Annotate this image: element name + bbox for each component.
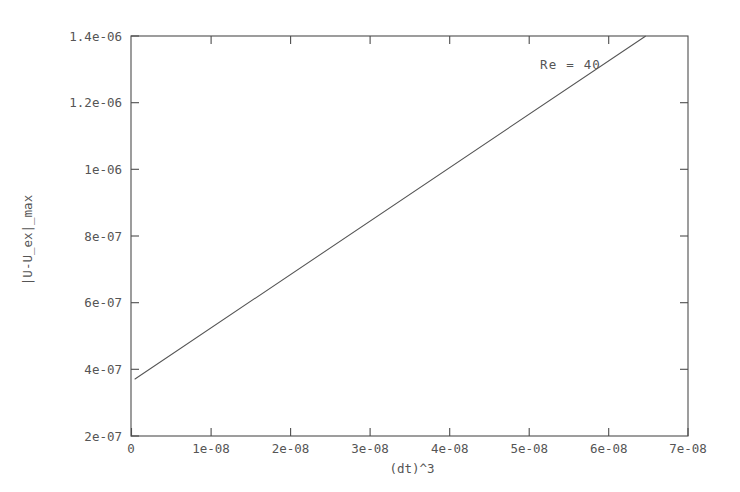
x-tick-labels: 0 1e-08 2e-08 3e-08 4e-08 5e-08 6e-08 7e… bbox=[127, 441, 707, 456]
y-axis-ticks-left bbox=[131, 36, 139, 436]
x-tick-label: 1e-08 bbox=[192, 441, 230, 456]
y-axis-ticks-right bbox=[680, 103, 688, 370]
y-tick-label: 1e-06 bbox=[84, 162, 122, 177]
y-tick-label: 1.4e-06 bbox=[69, 29, 122, 44]
x-tick-label: 7e-08 bbox=[669, 441, 707, 456]
x-tick-label: 2e-08 bbox=[272, 441, 310, 456]
data-series-line bbox=[135, 36, 645, 379]
y-tick-label: 8e-07 bbox=[84, 229, 122, 244]
y-tick-labels: 2e-07 4e-07 6e-07 8e-07 1e-06 1.2e-06 1.… bbox=[69, 29, 122, 444]
chart-page: 0 1e-08 2e-08 3e-08 4e-08 5e-08 6e-08 7e… bbox=[0, 0, 740, 492]
x-tick-label: 5e-08 bbox=[510, 441, 548, 456]
y-tick-label: 1.2e-06 bbox=[69, 95, 122, 110]
x-tick-label: 4e-08 bbox=[431, 441, 469, 456]
x-axis-title: (dt)^3 bbox=[389, 461, 434, 476]
x-tick-label: 6e-08 bbox=[590, 441, 628, 456]
x-axis-ticks-top bbox=[211, 36, 609, 44]
x-tick-label: 0 bbox=[127, 441, 135, 456]
y-tick-label: 2e-07 bbox=[84, 429, 122, 444]
annotation-reynolds-number: Re = 40 bbox=[540, 57, 601, 72]
y-axis-title: |U-U_ex|_max bbox=[20, 194, 35, 285]
x-tick-label: 3e-08 bbox=[351, 441, 389, 456]
y-tick-label: 6e-07 bbox=[84, 295, 122, 310]
plot-frame bbox=[131, 36, 688, 436]
x-axis-ticks-bottom bbox=[132, 428, 689, 436]
convergence-plot: 0 1e-08 2e-08 3e-08 4e-08 5e-08 6e-08 7e… bbox=[0, 0, 740, 492]
y-tick-label: 4e-07 bbox=[84, 362, 122, 377]
